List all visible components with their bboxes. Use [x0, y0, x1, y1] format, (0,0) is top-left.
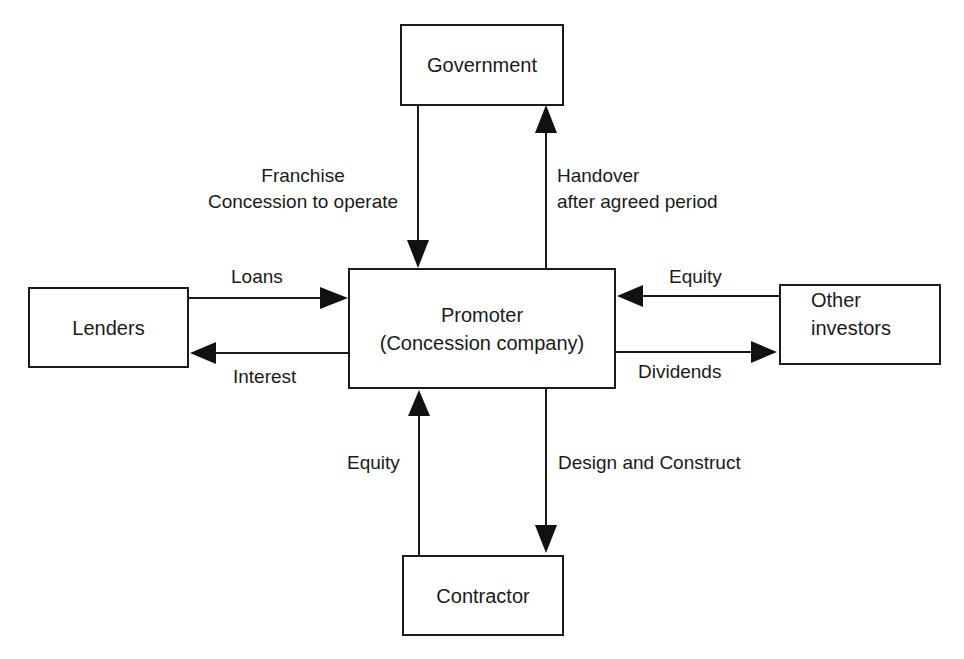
node-contractor-label: Contractor — [436, 582, 529, 610]
node-contractor: Contractor — [402, 555, 564, 636]
label-handover: Handover after agreed period — [557, 163, 718, 214]
label-dividends: Dividends — [638, 359, 721, 385]
label-interest: Interest — [233, 364, 296, 390]
label-equity-investors: Equity — [669, 264, 722, 290]
node-promoter-sublabel: (Concession company) — [380, 329, 585, 357]
node-other-investors-label-1: Other — [811, 286, 861, 314]
label-loans: Loans — [231, 264, 283, 290]
node-lenders: Lenders — [28, 287, 189, 368]
node-promoter: Promoter (Concession company) — [348, 268, 616, 389]
label-franchise: Franchise Concession to operate — [192, 163, 414, 214]
label-design-construct: Design and Construct — [558, 450, 741, 476]
node-other-investors-label-2: investors — [811, 314, 891, 342]
label-equity-contractor: Equity — [347, 450, 400, 476]
node-promoter-label: Promoter — [441, 301, 523, 329]
label-franchise-line1: Franchise — [192, 163, 414, 189]
label-franchise-line2: Concession to operate — [192, 189, 414, 215]
node-lenders-label: Lenders — [72, 314, 144, 342]
node-other-investors: Other investors — [779, 284, 941, 365]
node-government-label: Government — [427, 51, 537, 79]
node-government: Government — [400, 24, 564, 106]
label-handover-line2: after agreed period — [557, 189, 718, 215]
label-handover-line1: Handover — [557, 163, 718, 189]
